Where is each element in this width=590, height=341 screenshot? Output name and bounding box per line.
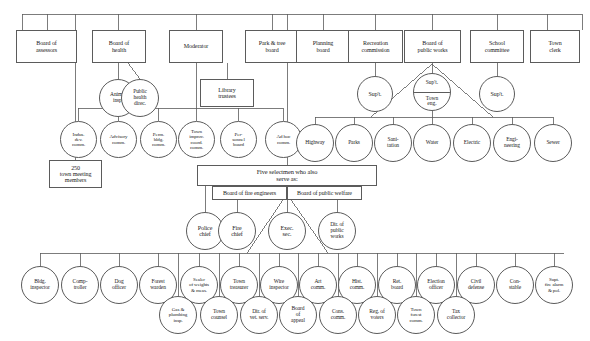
node-label: Fire chief <box>220 225 254 237</box>
node-comptroller[interactable]: Comp- troller <box>61 266 99 304</box>
node-label: Sani- tation <box>376 137 410 148</box>
node-director-of-veterans-services[interactable]: Dir. of vet. serv. <box>240 296 278 334</box>
node-building-inspector[interactable]: Bldg. inspector <box>21 266 59 304</box>
node-label: Cons. comm. <box>321 309 355 320</box>
node-label: Public health direc. <box>123 89 157 106</box>
node-label: Town clerk <box>532 40 578 52</box>
node-label: Dir. of public works <box>320 222 354 239</box>
node-permanent-building-committee[interactable]: Perm. bldg. comm. <box>140 121 177 158</box>
node-highway[interactable]: Highway <box>296 124 334 162</box>
node-gas-and-plumbing-inspector[interactable]: Gas & plumbing insp. <box>159 296 197 334</box>
node-label: Election officer <box>419 279 453 290</box>
node-label: Recreation commission <box>350 40 401 52</box>
node-label: Police chief <box>188 225 222 237</box>
node-board-of-public-works[interactable]: Board of public works <box>404 30 461 63</box>
node-label: Tax collector <box>439 309 473 320</box>
node-school-committee[interactable]: School committee <box>470 30 524 63</box>
node-supt-fire-alarm-and-police[interactable]: Supt. fire alarm & pol. <box>535 266 573 304</box>
node-label: Dog officer <box>102 279 136 290</box>
node-label: Comp- troller <box>63 279 97 290</box>
node-label: Town counsel <box>202 309 236 320</box>
node-public-works-superintendent-town-engineer[interactable]: Sup't. Town eng. <box>413 73 451 111</box>
node-water[interactable]: Water <box>413 124 451 162</box>
node-label: Board of appeal <box>281 306 315 323</box>
node-label: Advisory comm. <box>102 134 135 144</box>
node-label: Gas & plumbing insp. <box>161 307 195 323</box>
node-board-of-public-welfare[interactable]: Board of public welfare <box>287 186 362 200</box>
node-label: Parks <box>337 140 371 146</box>
node-conservation-commission[interactable]: Cons. comm. <box>319 296 357 334</box>
node-public-health-director[interactable]: Public health direc. <box>121 79 159 117</box>
node-label: School committee <box>472 40 522 52</box>
node-electric[interactable]: Electric <box>453 124 491 162</box>
node-label: Con- stable <box>498 279 532 290</box>
node-personnel-board[interactable]: Per- sonnel board <box>220 121 257 158</box>
node-sanitation[interactable]: Sani- tation <box>374 124 412 162</box>
node-label: Perm. bldg. comm. <box>142 132 175 148</box>
node-board-of-health[interactable]: Board of health <box>92 30 146 63</box>
node-label: Water <box>415 140 449 146</box>
node-label: Per- sonnel board <box>222 132 255 148</box>
node-label: Board of public welfare <box>289 190 360 196</box>
node-five-selectmen[interactable]: Five selectmen who also serve as: <box>197 165 377 186</box>
node-label: 250 town meeting members <box>51 165 100 184</box>
node-label: Planning board <box>298 40 348 52</box>
node-library-trustees[interactable]: Library trustees <box>200 79 254 107</box>
node-label: Sup't. <box>359 91 391 97</box>
org-chart: Board of assessors Board of health Moder… <box>0 0 590 341</box>
node-town-clerk[interactable]: Town clerk <box>530 30 580 63</box>
node-parktree[interactable]: Park & tree board <box>245 30 299 63</box>
node-town-improvement-coordinating-committee[interactable]: Town improv. coord. comm. <box>178 121 215 158</box>
node-registrar-of-voters[interactable]: Reg. of voters <box>358 296 396 334</box>
node-label: Engi- neering <box>495 137 529 148</box>
node-label: Library trustees <box>202 87 252 99</box>
node-recreation-superintendent[interactable]: Sup't. <box>357 76 393 112</box>
node-label: Town forest comm. <box>399 307 433 323</box>
node-recreation-commission[interactable]: Recreation commission <box>348 30 403 63</box>
node-label: Sewer <box>536 140 570 146</box>
node-label: Indus. dev. comm. <box>62 132 95 148</box>
node-advisory-committee[interactable]: Advisory comm. <box>100 121 137 158</box>
node-label: Forest warden <box>141 279 175 290</box>
node-label: Five selectmen who also serve as: <box>199 169 375 182</box>
node-label: Dir. of vet. serv. <box>242 309 276 320</box>
node-label: Park & tree board <box>247 40 297 52</box>
node-fire-chief[interactable]: Fire chief <box>218 212 256 250</box>
node-label: Town improv. coord. comm. <box>180 129 213 150</box>
node-label: Exec. sec. <box>270 225 304 237</box>
node-label: Civil defense <box>459 279 493 290</box>
node-dog-officer[interactable]: Dog officer <box>100 266 138 304</box>
node-label: Highway <box>298 140 332 146</box>
node-industrial-development-committee[interactable]: Indus. dev. comm. <box>60 121 97 158</box>
node-engineering[interactable]: Engi- neering <box>493 124 531 162</box>
node-board-of-assessors[interactable]: Board of assessors <box>16 30 77 63</box>
node-label: Wire inspector <box>262 279 296 290</box>
node-label: Bldg. inspector <box>23 279 57 290</box>
node-label: Moderator <box>171 43 221 49</box>
node-label: Board of fire engineers <box>214 190 285 196</box>
node-label: Supt. fire alarm & pol. <box>537 277 571 293</box>
node-board-of-appeal[interactable]: Board of appeal <box>279 296 317 334</box>
node-town-meeting-members[interactable]: 250 town meeting members <box>49 160 102 188</box>
node-label: Sealer of weights & meas. <box>182 277 216 293</box>
node-director-of-public-works[interactable]: Dir. of public works <box>318 212 356 250</box>
node-tax-collector[interactable]: Tax collector <box>437 296 475 334</box>
node-label: Town treasurer <box>222 279 256 290</box>
node-label: Sup't. <box>481 91 513 97</box>
node-label: Reg. of voters <box>360 309 394 320</box>
node-board-of-fire-engineers[interactable]: Board of fire engineers <box>212 186 287 200</box>
node-planning-board[interactable]: Planning board <box>296 30 350 63</box>
node-moderator[interactable]: Moderator <box>169 30 223 63</box>
node-executive-secretary[interactable]: Exec. sec. <box>268 212 306 250</box>
node-sewer[interactable]: Sewer <box>534 124 572 162</box>
node-town-counsel[interactable]: Town counsel <box>200 296 238 334</box>
node-town-forest-commission[interactable]: Town forest comm. <box>397 296 435 334</box>
node-label: Art comm. <box>301 279 335 290</box>
node-label: Board of assessors <box>18 40 75 52</box>
node-constable[interactable]: Con- stable <box>496 266 534 304</box>
node-school-superintendent[interactable]: Sup't. <box>479 76 515 112</box>
node-label: Ret. board <box>380 279 414 290</box>
node-label: Board of health <box>94 40 144 52</box>
node-label: Board of public works <box>406 40 459 52</box>
node-parks[interactable]: Parks <box>335 124 373 162</box>
